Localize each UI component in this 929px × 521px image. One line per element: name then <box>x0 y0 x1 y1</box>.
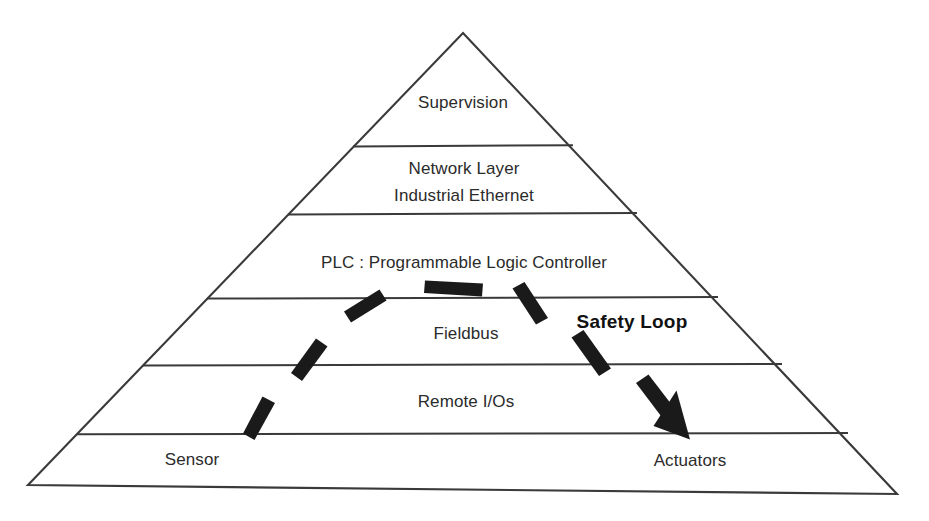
divider-line-1 <box>353 145 573 146</box>
level-label-sensor: Sensor <box>165 448 219 473</box>
level-label-network-layer-line1: Network Layer <box>394 155 534 182</box>
automation-pyramid-diagram: Supervision Network Layer Industrial Eth… <box>0 0 929 521</box>
level-label-supervision: Supervision <box>418 91 508 116</box>
level-label-network-layer-line2: Industrial Ethernet <box>394 182 534 209</box>
level-label-fieldbus: Fieldbus <box>433 322 498 347</box>
divider-line-5 <box>77 433 848 434</box>
annotation-label-safety-loop: Safety Loop <box>577 311 688 333</box>
level-label-plc: PLC : Programmable Logic Controller <box>321 251 607 276</box>
level-label-actuators: Actuators <box>654 449 727 474</box>
level-label-network-layer: Network Layer Industrial Ethernet <box>394 155 534 209</box>
level-label-remote-ios: Remote I/Os <box>418 390 515 415</box>
divider-line-4 <box>143 364 782 365</box>
